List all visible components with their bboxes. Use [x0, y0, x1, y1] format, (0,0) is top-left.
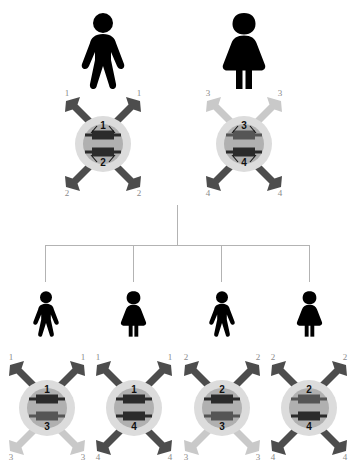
- tip-label-top-left: 1: [60, 89, 74, 98]
- inheritance-diagram-canvas: 1 1 2 2 1 2: [0, 0, 354, 468]
- male-figure-icon: [31, 288, 61, 340]
- pedigree-child-line-4: [309, 245, 310, 282]
- tip-label-top-right: 2: [338, 353, 352, 362]
- nucleus-label-top: 1: [37, 385, 57, 395]
- meiosis-cell-icon: [178, 352, 266, 464]
- child-3-cell: 2 2 3 3 2 3: [178, 352, 266, 464]
- child-4-figure: [294, 288, 325, 340]
- tip-label-bottom-left: 4: [266, 453, 280, 462]
- child-2-figure: [118, 288, 149, 340]
- parent-mother-cell: 3 3 4 4 3 4: [200, 88, 288, 200]
- tip-label-bottom-right: 4: [163, 453, 177, 462]
- tip-label-bottom-left: 4: [91, 453, 105, 462]
- tip-label-top-left: 3: [201, 89, 215, 98]
- child-2-cell: 1 1 4 4 1 4: [90, 352, 178, 464]
- tip-label-top-right: 1: [163, 353, 177, 362]
- tip-label-top-right: 3: [273, 89, 287, 98]
- parent-mother-figure: [218, 12, 270, 90]
- tip-label-top-left: 1: [91, 353, 105, 362]
- child-4-cell: 2 2 4 4 2 4: [265, 352, 353, 464]
- female-figure-icon: [118, 288, 149, 340]
- nucleus-label-bottom: 4: [124, 422, 144, 432]
- tip-label-top-left: 2: [266, 353, 280, 362]
- pedigree-child-line-1: [45, 245, 46, 282]
- nucleus-label-bottom: 3: [37, 422, 57, 432]
- female-figure-icon: [294, 288, 325, 340]
- nucleus-label-bottom: 4: [299, 422, 319, 432]
- nucleus-label-bottom: 3: [212, 422, 232, 432]
- nucleus-label-top: 2: [299, 385, 319, 395]
- female-figure-icon: [218, 12, 270, 90]
- parent-father-figure: [78, 12, 128, 90]
- nucleus-label-top: 1: [124, 385, 144, 395]
- nucleus-label-top: 2: [212, 385, 232, 395]
- child-1-figure: [31, 288, 61, 340]
- tip-label-bottom-right: 4: [273, 189, 287, 198]
- nucleus-label-top: 3: [234, 121, 254, 131]
- meiosis-cell-icon: [59, 88, 147, 200]
- male-figure-icon: [207, 288, 237, 340]
- tip-label-bottom-right: 2: [132, 189, 146, 198]
- meiosis-cell-icon: [200, 88, 288, 200]
- pedigree-child-line-3: [221, 245, 222, 282]
- male-figure-icon: [78, 12, 128, 90]
- nucleus-label-bottom: 2: [93, 158, 113, 168]
- meiosis-cell-icon: [90, 352, 178, 464]
- tip-label-bottom-right: 3: [251, 453, 265, 462]
- nucleus-label-top: 1: [93, 121, 113, 131]
- child-3-figure: [207, 288, 237, 340]
- tip-label-top-right: 1: [132, 89, 146, 98]
- tip-label-top-right: 2: [251, 353, 265, 362]
- tip-label-bottom-left: 2: [60, 189, 74, 198]
- tip-label-top-left: 2: [179, 353, 193, 362]
- meiosis-cell-icon: [3, 352, 91, 464]
- meiosis-cell-icon: [265, 352, 353, 464]
- nucleus-label-bottom: 4: [234, 158, 254, 168]
- pedigree-child-line-2: [133, 245, 134, 282]
- tip-label-top-left: 1: [4, 353, 18, 362]
- pedigree-descent-line: [177, 205, 178, 245]
- tip-label-bottom-left: 4: [201, 189, 215, 198]
- parent-father-cell: 1 1 2 2 1 2: [59, 88, 147, 200]
- tip-label-top-right: 1: [76, 353, 90, 362]
- child-1-cell: 1 1 3 3 1 3: [3, 352, 91, 464]
- tip-label-bottom-right: 3: [76, 453, 90, 462]
- pedigree-sibship-line: [45, 245, 310, 246]
- tip-label-bottom-left: 3: [4, 453, 18, 462]
- tip-label-bottom-left: 3: [179, 453, 193, 462]
- tip-label-bottom-right: 4: [338, 453, 352, 462]
